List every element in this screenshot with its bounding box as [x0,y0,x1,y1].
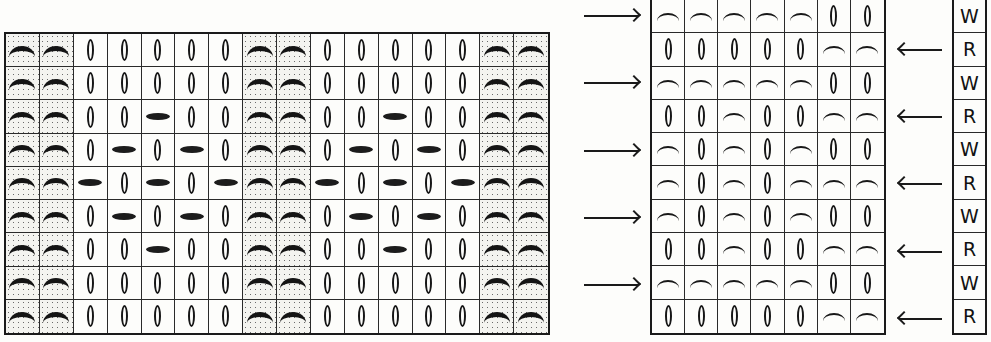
chart-cell [818,233,851,266]
chart-cell [108,100,142,133]
knit-oval-icon [459,305,466,327]
chart-cell [243,233,277,266]
knit-oval-icon [459,72,466,94]
chart-cell [40,200,74,233]
knit-oval-icon [324,72,331,94]
knit-oval-icon [324,39,331,61]
chart-cell [277,100,311,133]
chart-cell [74,300,108,333]
chart-cell [311,200,345,233]
purl-arc-icon [43,79,69,90]
chart-cell [514,300,548,333]
purl-arc-icon [756,13,778,21]
knit-oval-icon [188,172,195,194]
knit-oval-icon [797,38,804,60]
knit-oval-icon [358,106,365,128]
chart-cell [514,200,548,233]
slip-bar-icon [112,213,136,220]
row-label: W [954,200,985,233]
purl-arc-icon [9,79,35,90]
knit-oval-icon [864,205,871,227]
chart-cell [652,33,685,66]
chart-cell [851,33,884,66]
purl-arc-icon [790,146,812,154]
knit-oval-icon [222,238,229,260]
knit-oval-icon [425,272,432,294]
chart-cell [345,167,379,200]
row-label: R [954,233,985,266]
chart-cell [851,100,884,133]
row-label: W [954,67,985,100]
chart-cell [718,166,751,199]
chart-cell [751,266,784,299]
chart-cell [6,167,40,200]
chart-cell [243,167,277,200]
chart-cell [751,133,784,166]
purl-arc-icon [518,212,544,223]
purl-arc-icon [756,280,778,288]
chart-cell [480,100,514,133]
knit-oval-icon [222,39,229,61]
purl-arc-icon [723,80,745,88]
chart-cell [74,267,108,300]
chart-cell [6,267,40,300]
chart-cell [142,233,176,266]
purl-arc-icon [484,278,510,289]
knit-oval-icon [188,106,195,128]
chart-cell [6,134,40,167]
purl-arc-icon [43,46,69,57]
purl-arc-icon [657,13,679,21]
chart-cell [480,167,514,200]
purl-arc-icon [247,178,273,189]
knit-oval-icon [358,238,365,260]
knit-oval-icon [87,238,94,260]
chart-cell [718,133,751,166]
chart-cell [685,100,718,133]
chart-cell [277,167,311,200]
knit-oval-icon [358,39,365,61]
chart-cell [142,34,176,67]
chart-cell [379,100,413,133]
purl-arc-icon [9,278,35,289]
chart-cell [40,67,74,100]
knit-oval-icon [392,272,399,294]
row-label: W [954,0,985,33]
chart-cell [851,266,884,299]
chart-cell [311,67,345,100]
knit-oval-icon [392,305,399,327]
knit-oval-icon [188,72,195,94]
chart-cell [175,67,209,100]
purl-arc-icon [280,312,306,323]
chart-cell [718,33,751,66]
purl-arc-icon [823,313,845,321]
slip-bar-icon [417,213,441,220]
knit-oval-icon [698,205,705,227]
chart-cell [718,67,751,100]
purl-arc-icon [657,146,679,154]
chart-cell [652,266,685,299]
chart-cell [108,233,142,266]
knit-oval-icon [392,39,399,61]
purl-arc-icon [484,46,510,57]
slip-bar-icon [180,213,204,220]
purl-arc-icon [280,245,306,256]
chart-cell [514,267,548,300]
chart-cell [751,166,784,199]
knit-oval-icon [324,238,331,260]
chart-cell [277,267,311,300]
chart-cell [277,200,311,233]
knit-oval-icon [222,305,229,327]
knit-oval-icon [154,205,161,227]
knit-oval-icon [121,238,128,260]
chart-cell [6,300,40,333]
chart-cell [446,200,480,233]
chart-cell [751,300,784,333]
chart-cell [345,300,379,333]
chart-cell [142,100,176,133]
chart-cell [243,67,277,100]
purl-arc-icon [247,312,273,323]
chart-cell [718,100,751,133]
purl-arc-icon [484,145,510,156]
chart-cell [685,166,718,199]
chart-cell [175,300,209,333]
